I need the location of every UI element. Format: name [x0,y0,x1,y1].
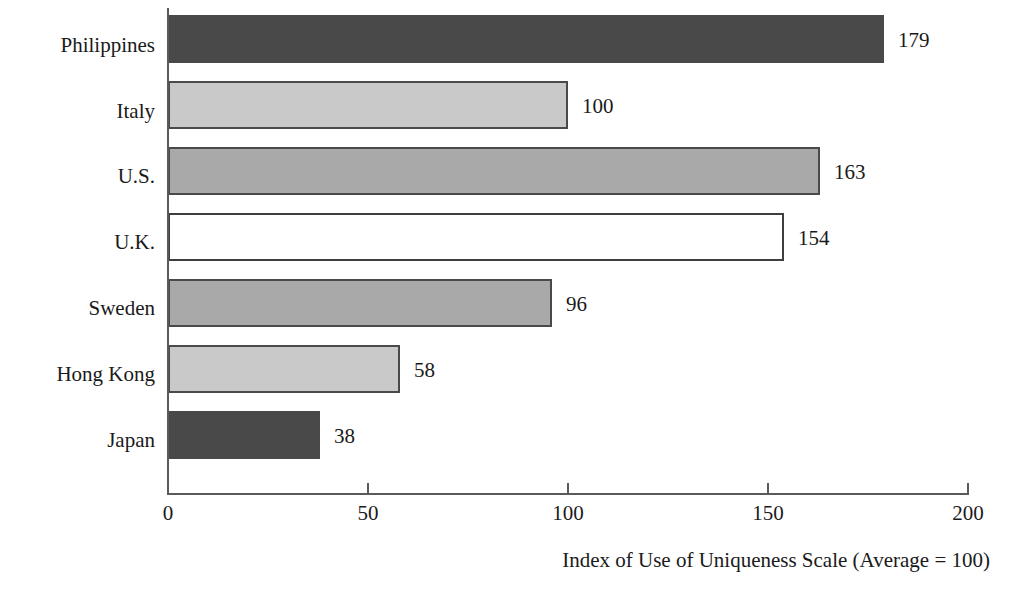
category-label-us: U.S. [0,166,155,187]
x-tick-label-200: 200 [952,503,984,524]
x-tick-50 [367,483,369,494]
x-tick-100 [567,483,569,494]
category-label-italy: Italy [0,101,155,122]
value-label-hong-kong: 58 [414,360,435,381]
x-tick-200 [967,483,969,494]
x-tick-label-150: 150 [752,503,784,524]
value-label-uk: 154 [798,228,830,249]
bar-japan [168,411,320,459]
x-tick-label-50: 50 [358,503,379,524]
category-label-uk: U.K. [0,232,155,253]
value-label-philippines: 179 [898,30,930,51]
value-label-italy: 100 [582,96,614,117]
category-label-sweden: Sweden [0,298,155,319]
x-tick-label-100: 100 [552,503,584,524]
category-label-hong-kong: Hong Kong [0,364,155,385]
category-label-japan: Japan [0,430,155,451]
category-label-philippines: Philippines [0,35,155,56]
bar-chart: Philippines Italy U.S. U.K. Sweden Hong … [0,0,1028,604]
x-tick-label-0: 0 [163,503,174,524]
bar-philippines [168,15,884,63]
bar-sweden [168,279,552,327]
value-label-japan: 38 [334,426,355,447]
bar-italy [168,81,568,129]
bar-us [168,147,820,195]
value-label-sweden: 96 [566,294,587,315]
y-axis-line [167,8,169,495]
x-tick-150 [767,483,769,494]
bar-hong-kong [168,345,400,393]
value-label-us: 163 [834,162,866,183]
x-axis-title: Index of Use of Uniqueness Scale (Averag… [0,549,990,571]
x-tick-0 [167,483,169,494]
bar-uk [168,213,784,261]
